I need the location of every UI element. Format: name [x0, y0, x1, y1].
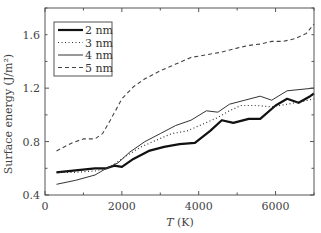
y-tick-label: 1.6 [23, 29, 41, 42]
legend: 2 nm3 nm4 nm5 nm [54, 22, 114, 76]
series-line-2-nm [57, 94, 315, 173]
legend-label: 5 nm [85, 62, 114, 75]
x-axis-label: T (K) [166, 216, 194, 229]
legend-label: 2 nm [85, 24, 114, 37]
line-chart: 02000400060000.40.81.21.6 2 nm3 nm4 nm5 … [0, 0, 321, 233]
y-axis-label: Surface energy (J/m²) [2, 54, 15, 174]
series-line-3-nm [57, 99, 315, 173]
y-tick-label: 0.8 [23, 136, 41, 149]
y-tick-label: 1.2 [23, 82, 41, 95]
x-tick-label: 4000 [185, 200, 213, 213]
series-line-4-nm [57, 88, 315, 184]
y-tick-label: 0.4 [23, 189, 41, 202]
x-tick-label: 2000 [108, 200, 136, 213]
legend-label: 3 nm [85, 37, 114, 50]
legend-label: 4 nm [85, 49, 114, 62]
x-tick-label: 6000 [262, 200, 290, 213]
x-tick-label: 0 [42, 200, 49, 213]
